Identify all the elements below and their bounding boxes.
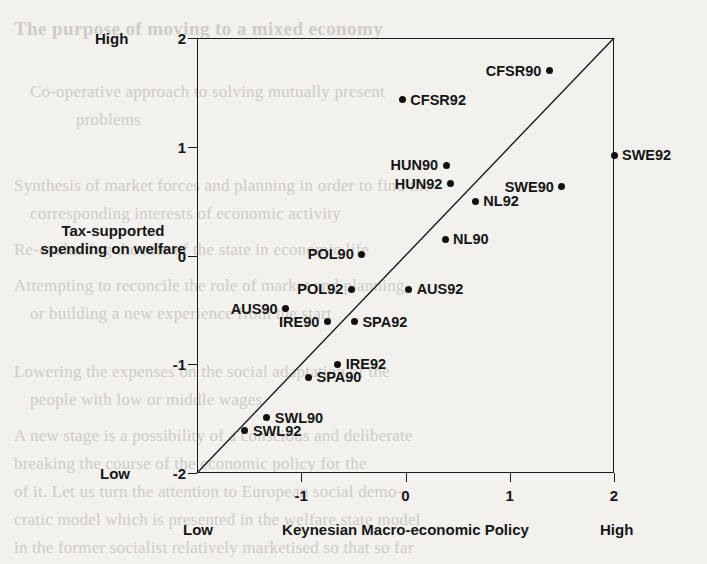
y-axis-tick-label: -2 xyxy=(173,465,186,482)
scatter-chart-figure: 210-1-2-1012 High Low Low High Tax-suppo… xyxy=(0,0,707,564)
x-axis-tick xyxy=(301,473,302,482)
data-point-label: POL90 xyxy=(308,246,354,262)
y-axis-tick xyxy=(188,38,197,39)
diagonal-reference-line xyxy=(197,38,614,473)
data-point-label: SWE92 xyxy=(622,147,671,163)
data-point-label: NL92 xyxy=(483,193,518,209)
data-point-marker xyxy=(305,374,312,381)
data-point-label: NL90 xyxy=(453,231,488,247)
y-axis-high-label: High xyxy=(95,30,128,47)
x-axis-tick xyxy=(510,473,511,482)
y-axis-tick-label: 2 xyxy=(178,30,186,47)
x-axis-title: Keynesian Macro-economic Policy xyxy=(197,521,614,538)
x-axis-tick-label: -1 xyxy=(295,487,308,504)
y-axis-tick xyxy=(188,364,197,365)
data-point-marker xyxy=(348,286,355,293)
y-axis-tick-label: -1 xyxy=(173,356,186,373)
data-point-marker xyxy=(442,236,449,243)
data-point-marker xyxy=(334,361,341,368)
data-point-label: SPA92 xyxy=(362,314,407,330)
data-point-marker xyxy=(472,198,479,205)
data-point-label: IRE90 xyxy=(279,314,319,330)
data-point-label: SWL92 xyxy=(253,423,301,439)
data-point-label: POL92 xyxy=(297,281,343,297)
data-point-label: AUS90 xyxy=(231,301,278,317)
y-axis-low-label: Low xyxy=(100,465,130,482)
data-point-label: HUN92 xyxy=(395,176,443,192)
data-point-marker xyxy=(405,286,412,293)
y-axis-tick xyxy=(188,256,197,257)
x-axis-tick xyxy=(406,473,407,482)
y-axis-tick xyxy=(188,473,197,474)
y-axis-tick-label: 1 xyxy=(178,138,186,155)
x-axis-tick-label: 2 xyxy=(610,487,618,504)
x-axis-tick-label: 1 xyxy=(506,487,514,504)
x-axis-tick xyxy=(614,473,615,482)
data-point-marker xyxy=(447,180,454,187)
data-point-marker xyxy=(546,67,553,74)
data-point-marker xyxy=(443,162,450,169)
y-axis-title: Tax-supported spending on welfare xyxy=(40,222,186,258)
x-axis-tick-label: 0 xyxy=(401,487,409,504)
data-point-label: SPA90 xyxy=(317,369,362,385)
data-point-label: CFSR90 xyxy=(486,63,542,79)
data-point-label: CFSR92 xyxy=(410,92,466,108)
data-point-marker xyxy=(611,152,618,159)
data-point-label: AUS92 xyxy=(417,281,464,297)
y-axis-tick xyxy=(188,147,197,148)
data-point-label: HUN90 xyxy=(391,157,439,173)
